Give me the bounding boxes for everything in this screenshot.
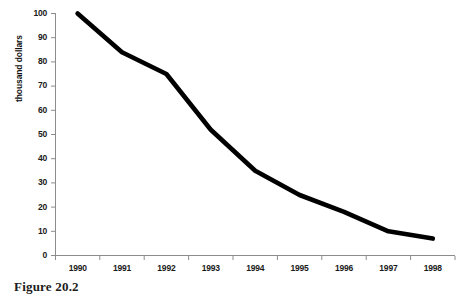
x-axis-ticks	[56, 256, 456, 260]
x-tick-label-1992: 1992	[146, 264, 186, 273]
y-tick-label-100: 100	[21, 9, 47, 18]
y-tick-label-90: 90	[21, 33, 47, 42]
data-series-line	[78, 14, 433, 239]
x-tick-label-1994: 1994	[235, 264, 275, 273]
y-tick-label-40: 40	[21, 154, 47, 163]
y-tick-label-60: 60	[21, 106, 47, 115]
figure-container: thousand dollars 100 90 80 70 60 50 40 3…	[0, 0, 470, 300]
y-tick-label-30: 30	[21, 178, 47, 187]
x-tick-label-1990: 1990	[58, 264, 98, 273]
y-tick-label-70: 70	[21, 81, 47, 90]
y-tick-label-10: 10	[21, 227, 47, 236]
line-chart: thousand dollars 100 90 80 70 60 50 40 3…	[0, 0, 470, 275]
figure-caption: Figure 20.2	[14, 279, 79, 295]
y-tick-label-0: 0	[21, 251, 47, 260]
y-tick-label-80: 80	[21, 57, 47, 66]
y-axis-ticks	[51, 14, 55, 256]
y-tick-label-20: 20	[21, 203, 47, 212]
x-tick-label-1991: 1991	[102, 264, 142, 273]
y-tick-label-50: 50	[21, 130, 47, 139]
chart-plot-svg	[0, 0, 470, 275]
x-tick-label-1993: 1993	[191, 264, 231, 273]
x-tick-label-1998: 1998	[413, 264, 453, 273]
x-tick-label-1997: 1997	[368, 264, 408, 273]
x-tick-label-1995: 1995	[280, 264, 320, 273]
x-tick-label-1996: 1996	[324, 264, 364, 273]
